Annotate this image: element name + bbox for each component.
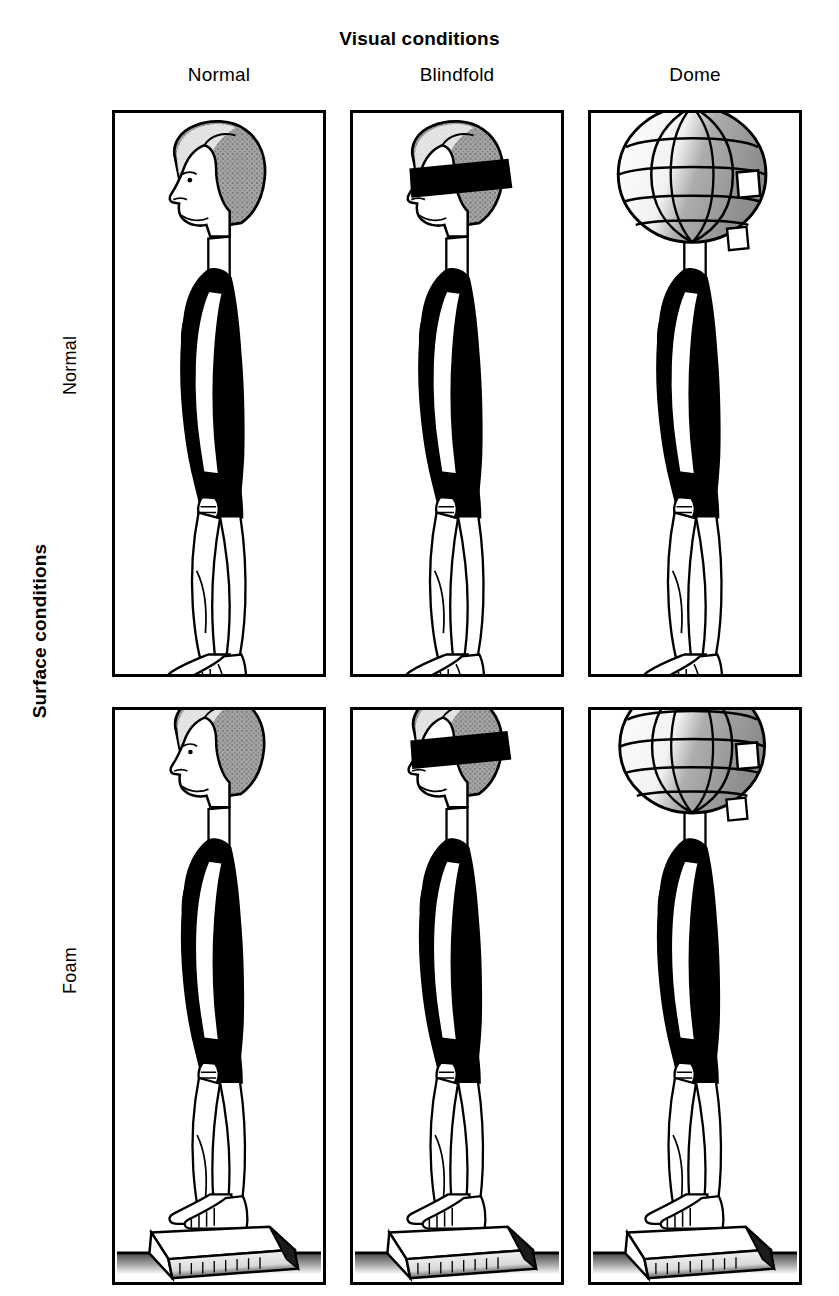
row-label-normal: Normal: [60, 286, 81, 446]
foam-pad: [387, 1227, 536, 1278]
foam-pad: [625, 1227, 774, 1278]
figure-illustration: [115, 710, 323, 1282]
row-axis-title: Surface conditions: [29, 531, 51, 731]
visual-dome: [620, 710, 765, 821]
visual-dome: [618, 113, 766, 250]
column-axis-title: Visual conditions: [0, 28, 839, 50]
panel-foam-surface-normal-vision: [112, 707, 326, 1285]
body-silhouette: [657, 807, 721, 1228]
head-eyes-open: [170, 121, 265, 236]
bare-feet: [169, 1194, 247, 1228]
panel-foam-surface-dome-vision: [588, 707, 802, 1285]
body-silhouette: [181, 807, 245, 1228]
figure-illustration: [591, 710, 799, 1282]
panel-normal-surface-blindfold-vision: [350, 110, 564, 677]
bare-feet: [643, 654, 722, 674]
foam-pad: [149, 1227, 298, 1278]
head-eyes-open: [171, 710, 265, 807]
row-label-foam: Foam: [60, 891, 81, 1051]
body-silhouette: [419, 807, 483, 1228]
body-silhouette: [418, 237, 483, 667]
figure-illustration: [353, 113, 561, 674]
body-silhouette: [180, 237, 245, 667]
bare-feet: [407, 1194, 485, 1228]
bare-feet: [167, 654, 246, 674]
figure-illustration: [353, 710, 561, 1282]
figure-illustration: [115, 113, 323, 674]
panel-normal-surface-dome-vision: [588, 110, 802, 677]
body-silhouette: [656, 237, 721, 667]
panel-normal-surface-normal-vision: [112, 110, 326, 677]
panel-foam-surface-blindfold-vision: [350, 707, 564, 1285]
bare-feet: [645, 1194, 723, 1228]
figure-illustration: [591, 113, 799, 674]
column-label-blindfold: Blindfold: [350, 64, 564, 86]
column-label-normal: Normal: [112, 64, 326, 86]
bare-feet: [405, 654, 484, 674]
column-label-dome: Dome: [588, 64, 802, 86]
